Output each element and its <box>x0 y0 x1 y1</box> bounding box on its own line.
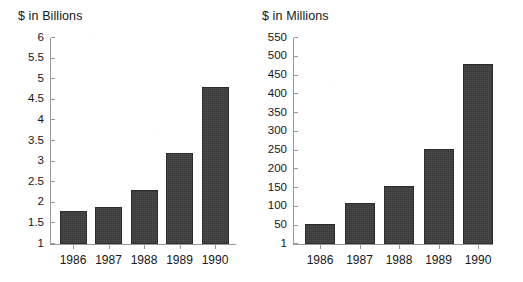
x-tick-billions <box>215 245 216 249</box>
y-tick-label-billions: 5.5 <box>28 52 44 64</box>
y-tick-billions: 1.5 <box>51 222 55 223</box>
y-tick-millions: 200 <box>294 168 298 169</box>
x-tick-millions <box>360 245 361 249</box>
y-tick-label-millions: 550 <box>268 32 287 44</box>
x-tick-billions <box>109 245 110 249</box>
plot-area-billions: 11.522.533.544.555.561986198719881989199… <box>50 38 228 245</box>
y-tick-label-millions: 250 <box>268 144 287 156</box>
y-tick-billions: 3 <box>51 161 55 162</box>
y-tick-label-billions: 4 <box>38 114 44 126</box>
y-tick-millions: 550 <box>294 37 298 38</box>
x-tick-billions <box>180 245 181 249</box>
chart-title-billions: $ in Billions <box>18 9 83 23</box>
bar-millions-1990 <box>463 64 493 244</box>
y-tick-label-billions: 6 <box>38 32 44 44</box>
bar-billions-1988 <box>131 190 158 244</box>
bar-billions-1987 <box>95 207 122 244</box>
y-tick-label-millions: 1 <box>281 238 287 250</box>
y-tick-label-billions: 3 <box>38 155 44 167</box>
x-tick-millions <box>478 245 479 249</box>
y-tick-billions: 6 <box>51 37 55 38</box>
y-tick-billions: 5.5 <box>51 58 55 59</box>
chart-panel-billions: $ in Billions 11.522.533.544.555.5619861… <box>0 0 262 282</box>
y-axis-line-billions <box>50 38 51 245</box>
bar-chart-figure: $ in Billions 11.522.533.544.555.5619861… <box>0 0 523 282</box>
bar-millions-1988 <box>384 186 414 244</box>
x-tick-millions <box>320 245 321 249</box>
y-tick-millions: 350 <box>294 112 298 113</box>
bar-millions-1989 <box>424 149 454 244</box>
x-axis-line-millions <box>293 244 493 245</box>
y-tick-label-millions: 200 <box>268 163 287 175</box>
y-tick-label-millions: 500 <box>268 51 287 63</box>
y-tick-billions: 5 <box>51 78 55 79</box>
y-tick-label-millions: 400 <box>268 88 287 100</box>
y-tick-label-billions: 1 <box>38 238 44 250</box>
y-tick-millions: 1 <box>294 243 298 244</box>
y-tick-millions: 300 <box>294 131 298 132</box>
x-axis-label-billions-1990: 1990 <box>190 254 240 266</box>
y-tick-millions: 500 <box>294 56 298 57</box>
bar-billions-1989 <box>166 153 193 244</box>
y-tick-billions: 4.5 <box>51 99 55 100</box>
y-tick-label-billions: 4.5 <box>28 94 44 106</box>
y-tick-millions: 100 <box>294 206 298 207</box>
y-tick-billions: 3.5 <box>51 140 55 141</box>
y-tick-billions: 2 <box>51 202 55 203</box>
y-tick-label-millions: 300 <box>268 126 287 138</box>
x-axis-line-billions <box>50 244 236 245</box>
bar-millions-1986 <box>305 224 335 244</box>
plot-area-millions: 1501001502002503003504004505005501986198… <box>293 38 485 245</box>
y-tick-label-millions: 50 <box>274 219 287 231</box>
bar-millions-1987 <box>345 203 375 244</box>
bar-billions-1990 <box>202 87 229 244</box>
chart-panel-millions: $ in Millions 15010015020025030035040045… <box>262 0 523 282</box>
y-tick-billions: 4 <box>51 119 55 120</box>
y-tick-label-millions: 150 <box>268 182 287 194</box>
x-axis-label-millions-1990: 1990 <box>453 254 503 266</box>
y-axis-line-millions <box>293 38 294 245</box>
x-tick-millions <box>439 245 440 249</box>
bar-billions-1986 <box>60 211 87 244</box>
x-tick-billions <box>73 245 74 249</box>
y-tick-label-billions: 2.5 <box>28 176 44 188</box>
y-tick-millions: 50 <box>294 225 298 226</box>
y-tick-billions: 2.5 <box>51 181 55 182</box>
x-tick-billions <box>144 245 145 249</box>
y-tick-label-billions: 2 <box>38 197 44 209</box>
y-tick-label-millions: 100 <box>268 201 287 213</box>
y-tick-millions: 250 <box>294 150 298 151</box>
y-tick-label-billions: 5 <box>38 73 44 85</box>
x-tick-millions <box>399 245 400 249</box>
y-tick-label-billions: 3.5 <box>28 135 44 147</box>
y-tick-billions: 1 <box>51 243 55 244</box>
y-tick-millions: 400 <box>294 93 298 94</box>
chart-title-millions: $ in Millions <box>262 9 329 23</box>
y-tick-label-millions: 350 <box>268 107 287 119</box>
y-tick-label-billions: 1.5 <box>28 217 44 229</box>
y-tick-label-millions: 450 <box>268 69 287 81</box>
y-tick-millions: 450 <box>294 75 298 76</box>
y-tick-millions: 150 <box>294 187 298 188</box>
